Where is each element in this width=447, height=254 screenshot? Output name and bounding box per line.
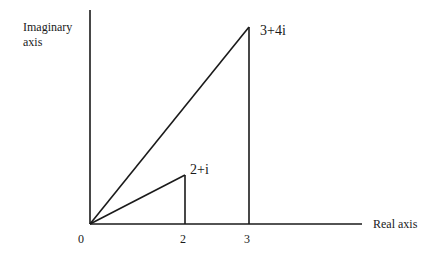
vector-3-plus-4i — [90, 27, 249, 224]
tick-label-3: 3 — [244, 232, 250, 246]
real-axis-label: Real axis — [373, 217, 417, 231]
vector-2-plus-i — [90, 175, 185, 224]
point-label-3-plus-4i: 3+4i — [260, 24, 286, 38]
origin-label: 0 — [78, 232, 84, 246]
point-label-2-plus-i: 2+i — [190, 163, 209, 177]
imaginary-axis-label-line2: axis — [23, 35, 42, 49]
argand-diagram — [0, 0, 447, 254]
tick-label-2: 2 — [180, 232, 186, 246]
imaginary-axis-label-line1: Imaginary — [23, 20, 72, 34]
